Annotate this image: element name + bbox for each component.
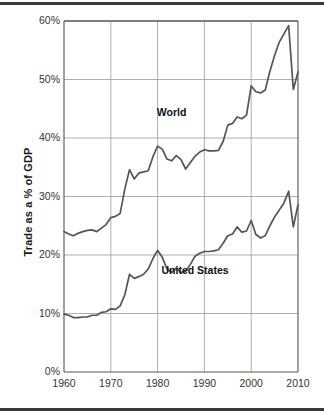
plot-area xyxy=(0,0,324,419)
series-annotation-united-states: United States xyxy=(161,264,228,276)
series-line-united-states xyxy=(64,191,298,317)
series-line-world xyxy=(64,26,298,236)
chart-figure: Trade as a % of GDP 0%10%20%30%40%50%60%… xyxy=(0,0,324,419)
series-annotation-world: World xyxy=(157,106,187,118)
gridlines xyxy=(64,21,298,372)
